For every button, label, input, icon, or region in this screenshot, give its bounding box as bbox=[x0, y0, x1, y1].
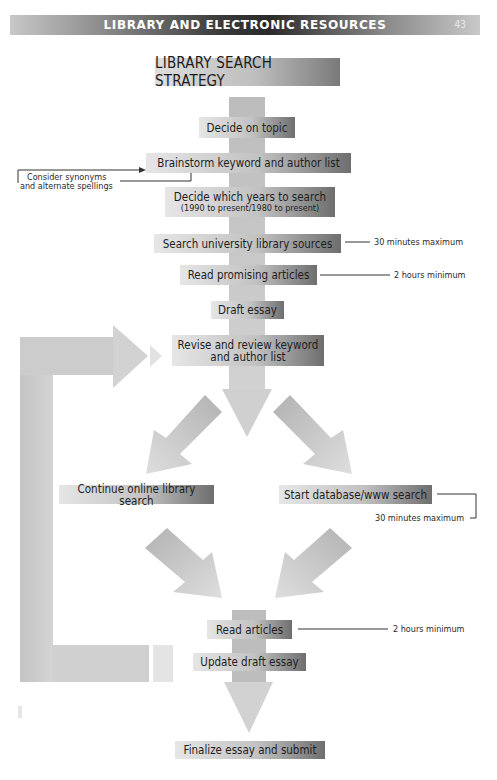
note-read-articles-time: 2 hours minimum bbox=[393, 624, 465, 634]
step-label: Revise and review keyword bbox=[178, 339, 319, 351]
callout-arrowhead bbox=[139, 167, 146, 173]
step-update-draft: Update draft essay bbox=[193, 653, 306, 671]
note-database-time: 30 minutes maximum bbox=[375, 513, 464, 523]
note-read-promising-time: 2 hours minimum bbox=[394, 270, 466, 280]
step-read-articles: Read articles bbox=[207, 620, 292, 639]
step-sublabel: (1990 to present/1980 to present) bbox=[181, 203, 319, 213]
step-label: Draft essay bbox=[218, 304, 277, 316]
step-read-promising: Read promising articles bbox=[180, 265, 317, 285]
step-decide-years: Decide which years to search (1990 to pr… bbox=[165, 187, 335, 217]
arrow-from-continue-online bbox=[145, 528, 222, 598]
step-start-database: Start database/www search bbox=[279, 485, 432, 504]
arrow-to-continue-online bbox=[146, 395, 222, 474]
arrow-from-start-database bbox=[275, 528, 352, 598]
step-label: Finalize essay and submit bbox=[184, 744, 317, 756]
step-label: Update draft essay bbox=[200, 656, 298, 668]
note-synonyms-line2: and alternate spellings bbox=[20, 181, 113, 191]
step-label: Decide on topic bbox=[207, 122, 288, 134]
step-search-university: Search university library sources bbox=[154, 234, 341, 253]
step-label-line2: and author list bbox=[210, 351, 285, 363]
step-label: Search university library sources bbox=[163, 238, 333, 250]
step-draft-essay: Draft essay bbox=[211, 301, 284, 319]
step-label: Read articles bbox=[216, 624, 283, 636]
step-label: Continue online library search bbox=[59, 483, 214, 507]
arrow-to-start-database bbox=[273, 395, 352, 474]
step-decide-topic: Decide on topic bbox=[199, 117, 295, 138]
note-search-university-time: 30 minutes maximum bbox=[374, 237, 463, 247]
diagram-title: LIBRARY SEARCH STRATEGY bbox=[155, 58, 340, 86]
step-revise: Revise and review keyword and author lis… bbox=[172, 335, 324, 366]
step-brainstorm: Brainstorm keyword and author list bbox=[146, 153, 351, 173]
step-label: Brainstorm keyword and author list bbox=[157, 157, 339, 169]
step-continue-online: Continue online library search bbox=[59, 485, 214, 504]
step-label: Decide which years to search bbox=[174, 191, 326, 203]
step-label: Start database/www search bbox=[284, 489, 427, 501]
step-label: Read promising articles bbox=[188, 269, 310, 281]
step-finalize: Finalize essay and submit bbox=[175, 741, 325, 759]
